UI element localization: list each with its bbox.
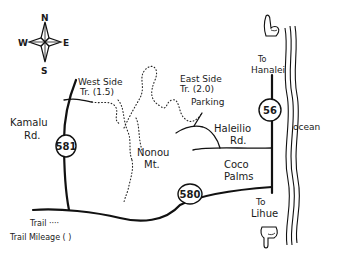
- compass-west: W: [18, 38, 28, 48]
- map-legend: Trail ···· Trail Mileage ( ): [9, 219, 71, 242]
- pointing-hand-down-icon: [261, 227, 277, 248]
- route-581-label: 581: [56, 141, 77, 152]
- parking-label: Parking: [191, 97, 224, 107]
- coco-palms-label-2: Palms: [224, 171, 253, 182]
- coastline: [285, 26, 300, 245]
- nonou-trail: [124, 160, 133, 203]
- to-hanalei-label-1: To: [257, 55, 267, 64]
- route-581-shield: 581: [56, 135, 77, 157]
- compass-south: S: [41, 66, 47, 76]
- west-side-trail-label-2: Tr. (1.5): [79, 87, 114, 97]
- haleilio-road-label-2: Rd.: [230, 135, 246, 146]
- trail-map: N S W E 581 580 56: [0, 0, 339, 259]
- to-lihue-label-1: To: [255, 197, 266, 207]
- legend-trail-mileage: Trail Mileage ( ): [9, 233, 71, 242]
- east-side-trail-label-2: Tr. (2.0): [179, 84, 214, 94]
- legend-trail: Trail ····: [29, 219, 59, 228]
- mid-trail: [136, 118, 142, 150]
- west-side-trail-label-1: West Side: [78, 77, 123, 87]
- compass-north: N: [41, 13, 49, 23]
- nonou-mt-label-1: Nonou: [137, 147, 169, 158]
- pointing-hand-up-icon: [265, 15, 279, 36]
- to-lihue-label-2: Lihue: [251, 208, 278, 219]
- to-hanalei-label-2: Hanalei: [251, 65, 285, 75]
- compass-east: E: [63, 38, 69, 48]
- east-side-trail-label-1: East Side: [180, 74, 222, 84]
- coco-palms-label-1: Coco: [224, 159, 249, 170]
- compass-rose-icon: N S W E: [18, 13, 69, 76]
- nonou-mt-label-2: Mt.: [144, 159, 160, 170]
- kamalu-road-label-2: Rd.: [24, 130, 40, 141]
- haleilio-road-label-1: Haleilio: [214, 123, 251, 134]
- haleilio-road: [193, 148, 272, 150]
- west-side-trail-branch: [118, 100, 132, 160]
- route-580-label: 580: [180, 189, 201, 200]
- kamalu-road-label-1: Kamalu: [10, 117, 48, 128]
- route-56-shield: 56: [259, 99, 281, 121]
- west-side-trail: [92, 102, 120, 124]
- ocean-label: ocean: [293, 122, 320, 132]
- route-56-label: 56: [263, 105, 277, 116]
- route-580-shield: 580: [178, 184, 202, 204]
